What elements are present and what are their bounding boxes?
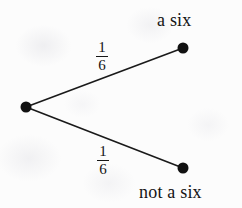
probability-tree-diagram: a six not a six 1 6 1 6 bbox=[0, 0, 242, 208]
upper-probability-numerator: 1 bbox=[92, 40, 112, 56]
upper-branch-probability: 1 6 bbox=[92, 40, 112, 73]
lower-probability-denominator: 6 bbox=[93, 161, 113, 177]
tree-graphics bbox=[0, 0, 242, 208]
a-six-label: a six bbox=[157, 10, 192, 30]
not-a-six-label: not a six bbox=[139, 182, 202, 202]
lower-probability-numerator: 1 bbox=[93, 144, 113, 160]
not-a-six-node-dot bbox=[178, 163, 189, 174]
root-node-dot bbox=[21, 102, 32, 113]
a-six-node-dot bbox=[178, 43, 189, 54]
lower-branch-probability: 1 6 bbox=[93, 144, 113, 177]
upper-probability-denominator: 6 bbox=[92, 57, 112, 73]
